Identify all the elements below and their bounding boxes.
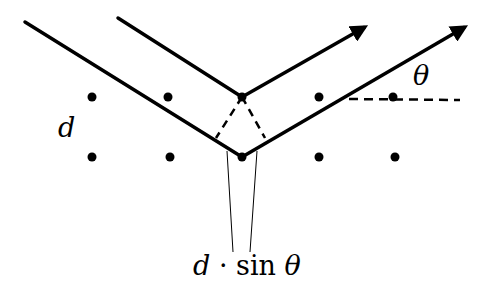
angle-reference-dashed	[349, 99, 460, 100]
path-difference-theta: θ	[285, 250, 301, 281]
angle-label: θ	[413, 60, 429, 91]
left-perpendicular-dashed	[216, 97, 242, 138]
path-diff-leader-right	[250, 151, 257, 252]
lower-reflected-ray	[242, 27, 465, 157]
upper-reflected-ray	[242, 27, 365, 97]
path-difference-op: · sin	[210, 250, 284, 281]
bragg-diagram: d θ d · sin θ	[0, 0, 491, 290]
path-diff-leader-left	[227, 151, 233, 252]
path-difference-d: d	[193, 250, 210, 281]
lattice-points	[88, 93, 400, 162]
path-difference-label: d · sin θ	[193, 250, 301, 281]
spacing-label: d	[58, 112, 75, 143]
upper-incident-ray	[118, 18, 242, 97]
diagram-canvas	[0, 0, 491, 290]
right-perpendicular-dashed	[242, 97, 265, 138]
